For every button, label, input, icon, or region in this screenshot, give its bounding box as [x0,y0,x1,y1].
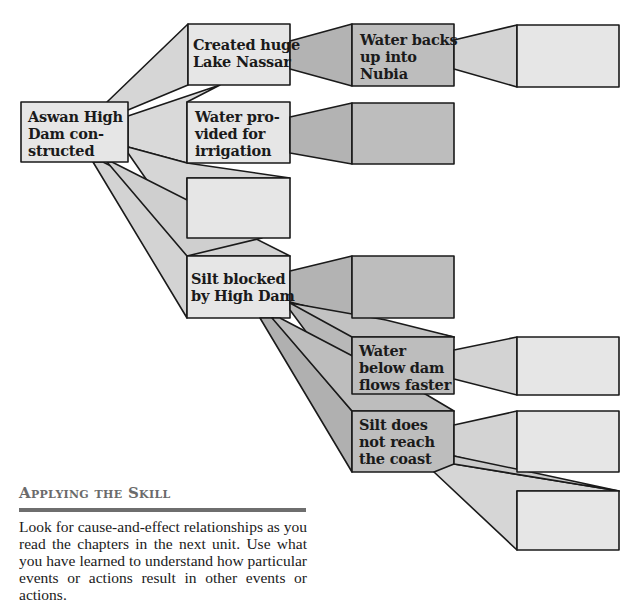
label-silt-blocked: Silt blocked by High Dam [191,270,295,304]
cause-effect-diagram [0,0,641,606]
label-silt-not-reach-coast: Silt does not reach the coast [359,416,435,467]
heading-rule-divider [19,508,306,512]
label-aswan-dam: Aswan High Dam con- structed [28,108,123,159]
box-empty-coast-effect [517,411,619,472]
label-water-backs-up: Water backs up into Nubia [360,31,457,82]
box-empty-faster-effect [517,337,619,395]
connector-faster-to-empty [454,337,517,395]
label-irrigation: Water pro- vided for irrigation [195,108,280,159]
box-empty-nubia-effect [517,25,619,87]
section-body-text: Look for cause-and-effect relationships … [19,518,307,603]
box-empty-irrigation-effect [352,103,454,164]
box-empty-silt-effect [352,256,454,318]
label-lake-nassar: Created huge Lake Nassar [193,36,300,70]
label-water-flows-faster: Water below dam flows faster [359,342,451,393]
connector-irrigation-to-empty [290,103,352,164]
box-empty-coast-effect-2 [517,491,619,550]
connector-root-to-lake [107,24,188,110]
connector-nubia-to-empty [454,25,517,87]
section-heading: Applying the Skill [19,484,309,502]
box-empty-level1 [187,178,290,238]
